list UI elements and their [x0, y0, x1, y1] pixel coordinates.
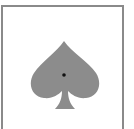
spade-icon	[29, 40, 101, 110]
center-dot	[62, 73, 66, 77]
playing-card[interactable]	[1, 5, 124, 129]
